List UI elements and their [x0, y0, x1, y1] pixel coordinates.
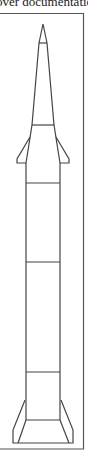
skirt-left: [18, 420, 26, 443]
skirt-right: [60, 420, 69, 443]
lower-fin-left: [13, 400, 25, 443]
nose-cone: [39, 24, 47, 43]
rocket-outline: [13, 24, 73, 443]
upper-stage-left: [32, 43, 39, 125]
upper-stage-right: [47, 43, 54, 125]
rocket-diagram: [0, 0, 88, 454]
figure-frame: [0, 14, 84, 450]
transition-right: [54, 125, 60, 163]
transition-left: [26, 125, 32, 163]
